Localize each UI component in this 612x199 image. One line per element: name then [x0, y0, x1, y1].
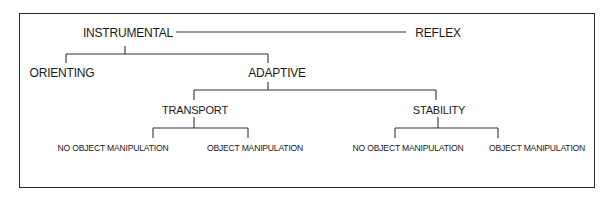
node-transport-object-manipulation: OBJECT MANIPULATION [207, 143, 303, 153]
node-stability-no-object-manipulation: NO OBJECT MANIPULATION [353, 143, 464, 153]
node-transport-no-object-manipulation: NO OBJECT MANIPULATION [58, 143, 169, 153]
node-stability: STABILITY [413, 104, 465, 116]
node-orienting: ORIENTING [30, 66, 95, 80]
node-reflex: REFLEX [415, 26, 460, 40]
node-adaptive: ADAPTIVE [248, 66, 306, 80]
node-transport: TRANSPORT [162, 104, 228, 116]
node-instrumental: INSTRUMENTAL [83, 26, 173, 40]
node-stability-object-manipulation: OBJECT MANIPULATION [489, 143, 585, 153]
